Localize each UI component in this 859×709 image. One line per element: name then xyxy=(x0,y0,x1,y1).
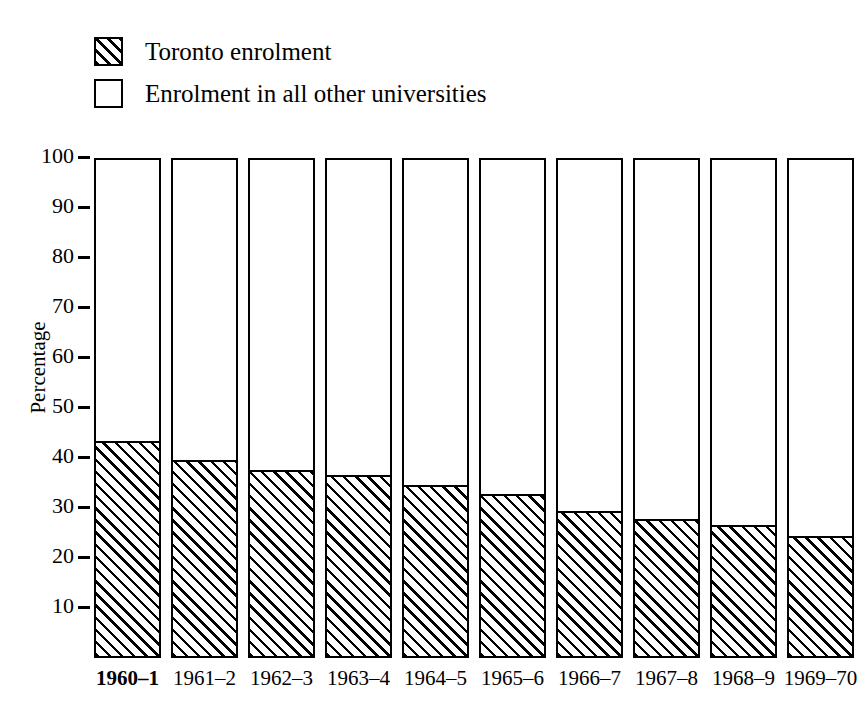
bar-1961-2 xyxy=(171,158,238,658)
bar-segment-toronto-enrolment xyxy=(250,470,313,656)
bar-1966-7 xyxy=(556,158,623,658)
stacked-bar-chart-figure: Toronto enrolment Enrolment in all other… xyxy=(0,0,859,709)
bar-1963-4 xyxy=(325,158,392,658)
bar-segment-toronto-enrolment xyxy=(173,460,236,656)
x-tick-label: 1960–1 xyxy=(87,668,168,689)
x-tick-label: 1962–3 xyxy=(241,668,322,689)
plot-area: Percentage 102030405060708090100 1960–11… xyxy=(0,0,859,709)
x-tick-label: 1965–6 xyxy=(472,668,553,689)
x-tick-label: 1966–7 xyxy=(549,668,630,689)
bar-segment-toronto-enrolment xyxy=(789,536,852,656)
bar-segment-toronto-enrolment xyxy=(481,494,544,656)
bar-segment-toronto-enrolment xyxy=(558,511,621,656)
bar-segment-toronto-enrolment xyxy=(635,519,698,656)
x-tick-label: 1968–9 xyxy=(703,668,784,689)
x-tick-label: 1961–2 xyxy=(164,668,245,689)
bar-1969-70 xyxy=(787,158,854,658)
x-tick-label: 1967–8 xyxy=(626,668,707,689)
x-tick-label: 1964–5 xyxy=(395,668,476,689)
bar-1962-3 xyxy=(248,158,315,658)
bar-1965-6 xyxy=(479,158,546,658)
bar-segment-toronto-enrolment xyxy=(96,441,159,656)
bar-1964-5 xyxy=(402,158,469,658)
x-tick-label: 1969–70 xyxy=(780,668,859,689)
bar-1960-1 xyxy=(94,158,161,658)
bars-container xyxy=(0,0,859,709)
bar-1968-9 xyxy=(710,158,777,658)
bar-segment-toronto-enrolment xyxy=(327,475,390,656)
bar-1967-8 xyxy=(633,158,700,658)
bar-segment-toronto-enrolment xyxy=(712,525,775,656)
bar-segment-toronto-enrolment xyxy=(404,485,467,656)
x-tick-label: 1963–4 xyxy=(318,668,399,689)
